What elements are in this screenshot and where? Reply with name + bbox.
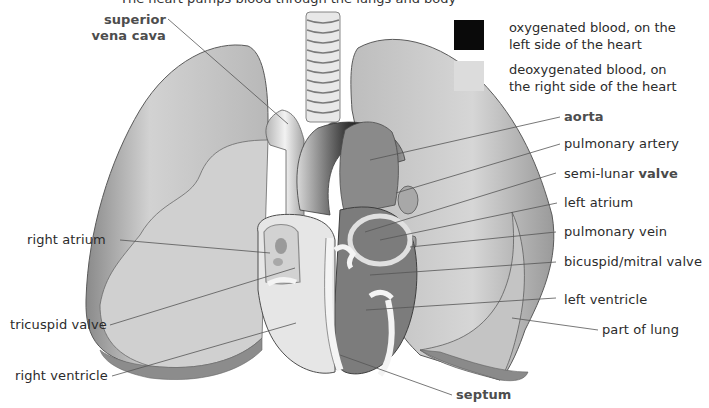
label-left-ventricle: left ventricle (564, 292, 647, 308)
label-right-atrium: right atrium (27, 232, 106, 248)
legend-oxygenated-line1: oxygenated blood, on the (509, 19, 676, 36)
legend-oxygenated-text: oxygenated blood, on the left side of th… (509, 19, 676, 53)
heart (258, 207, 417, 375)
label-semi-lunar-valve: semi-lunar valve (564, 166, 678, 182)
label-svc-line1: superior (74, 12, 166, 28)
pulmonary-artery (340, 122, 399, 215)
deoxygenated-swatch (454, 61, 484, 91)
right-lung (86, 45, 268, 380)
label-right-ventricle: right ventricle (15, 368, 108, 384)
label-tricuspid-valve: tricuspid valve (10, 317, 107, 333)
label-svc-line2: vena cava (74, 28, 166, 44)
label-bicuspid-mitral-valve: bicuspid/mitral valve (564, 254, 702, 270)
legend-deoxygenated-line2: the right side of the heart (509, 78, 677, 95)
trachea (306, 12, 340, 130)
label-left-atrium: left atrium (564, 195, 633, 211)
label-septum: septum (456, 387, 511, 403)
label-semi-lunar-prefix: semi-lunar (564, 166, 638, 181)
label-part-of-lung: part of lung (602, 322, 679, 338)
cut-off-title: The heart pumps blood through the lungs … (120, 0, 456, 6)
label-pulmonary-vein: pulmonary vein (564, 224, 667, 240)
label-superior-vena-cava: superior vena cava (74, 12, 166, 44)
label-pulmonary-artery: pulmonary artery (564, 136, 679, 152)
oxygenated-swatch (454, 20, 484, 50)
legend-oxygenated-line2: left side of the heart (509, 36, 676, 53)
label-semi-lunar-bold: valve (638, 166, 678, 181)
legend-deoxygenated-text: deoxygenated blood, on the right side of… (509, 61, 677, 95)
legend-deoxygenated-line1: deoxygenated blood, on (509, 61, 677, 78)
label-aorta: aorta (564, 109, 604, 125)
